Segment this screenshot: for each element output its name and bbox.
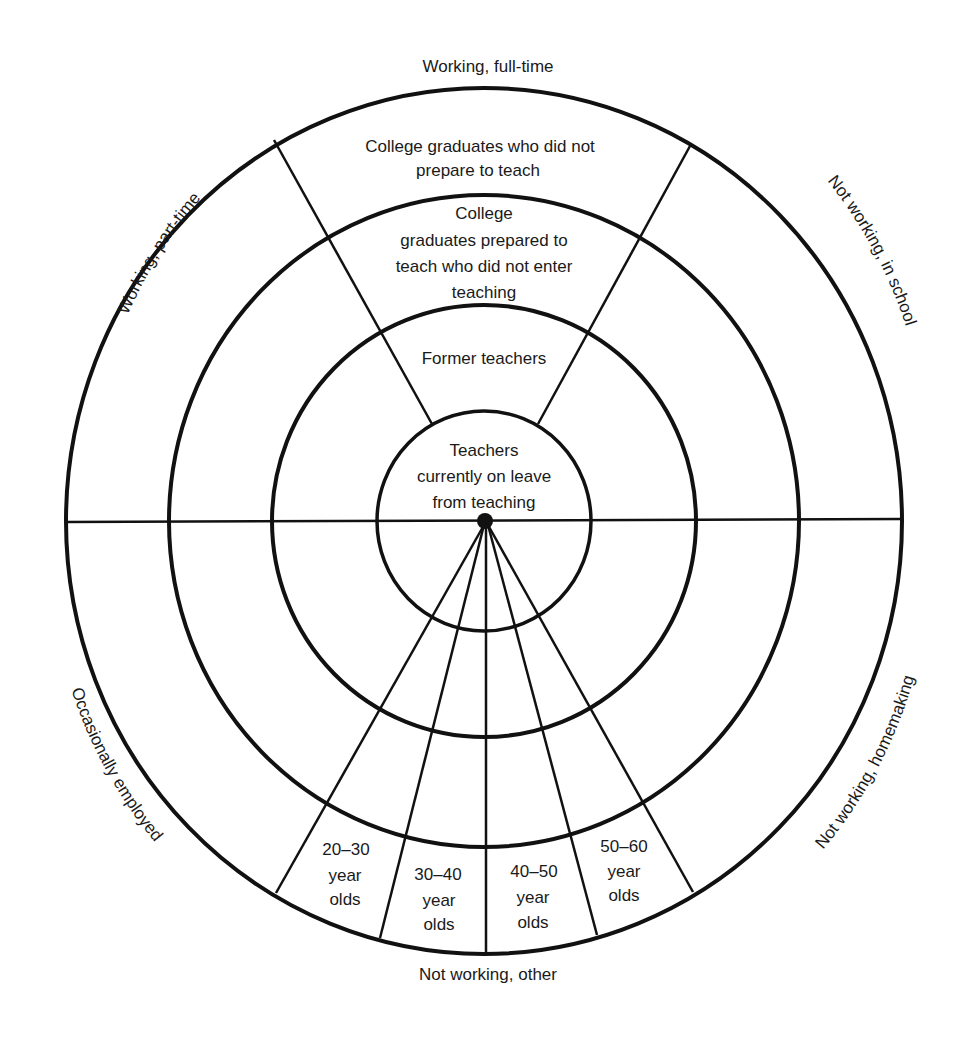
label-occasionally-employed: Occasionally employed — [67, 685, 166, 845]
age-group-20-30: 20–30 year olds — [322, 840, 369, 909]
label-ring-3-line-1: College — [455, 204, 513, 223]
age-olds-30-40: olds — [423, 915, 454, 934]
top-wedge-left-line — [274, 140, 432, 424]
label-working-part-time: Working, part-time — [114, 189, 204, 317]
age-year-50-60: year — [607, 862, 640, 881]
age-group-30-40: 30–40 year olds — [414, 865, 461, 934]
label-ring-4-line-1: College graduates who did not — [365, 137, 595, 156]
age-range-50-60: 50–60 — [600, 837, 647, 856]
label-not-working-in-school: Not working, in school — [824, 172, 920, 328]
age-olds-20-30: olds — [329, 890, 360, 909]
age-range-40-50: 40–50 — [510, 862, 557, 881]
age-year-40-50: year — [516, 888, 549, 907]
age-group-40-50: 40–50 year olds — [510, 862, 557, 932]
age-group-50-60: 50–60 year olds — [600, 837, 647, 905]
age-range-30-40: 30–40 — [414, 865, 461, 884]
label-working-full-time: Working, full-time — [423, 57, 554, 76]
bottom-fan-line-5 — [488, 525, 693, 892]
label-ring-3-line-4: teaching — [452, 283, 516, 302]
label-ring-1-line-2: currently on leave — [417, 467, 551, 486]
label-ring-2: Former teachers — [422, 349, 547, 368]
age-year-30-40: year — [422, 891, 455, 910]
bottom-fan-line-1 — [276, 525, 484, 893]
label-ring-3-line-3: teach who did not enter — [396, 257, 573, 276]
center-dot — [477, 513, 493, 529]
label-ring-1-line-3: from teaching — [433, 493, 536, 512]
label-ring-1-line-1: Teachers — [450, 441, 519, 460]
age-olds-50-60: olds — [608, 886, 639, 905]
label-ring-3-line-2: graduates prepared to — [400, 231, 567, 250]
label-not-working-other: Not working, other — [419, 965, 557, 984]
age-year-20-30: year — [328, 866, 361, 885]
age-range-20-30: 20–30 — [322, 840, 369, 859]
age-olds-40-50: olds — [517, 913, 548, 932]
label-ring-4-line-2: prepare to teach — [416, 161, 540, 180]
concentric-ring-diagram: Working, full-time College graduates who… — [0, 0, 979, 1038]
top-wedge-right-line — [538, 146, 690, 424]
